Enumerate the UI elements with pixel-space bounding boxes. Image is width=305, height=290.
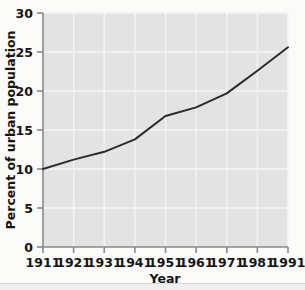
y-axis-tick-labels: 051015202530 [16, 6, 34, 255]
y-axis-tick-label: 20 [16, 84, 34, 99]
x-axis-tick-label: 1931 [87, 255, 122, 270]
x-axis-tick-label: 1951 [148, 255, 183, 270]
x-axis-ticks [43, 247, 288, 253]
y-axis-tick-label: 25 [16, 45, 33, 60]
x-axis-tick-label: 1911 [26, 255, 61, 270]
x-axis-tick-label: 1971 [209, 255, 244, 270]
x-axis-tick-label: 1921 [56, 255, 91, 270]
x-axis-tick-label: 1991 [271, 255, 305, 270]
x-axis-tick-label: 1981 [240, 255, 275, 270]
x-axis-tick-label: 1961 [179, 255, 214, 270]
page-bottom-divider [0, 283, 305, 290]
y-axis-title: Percent of urban population [3, 31, 18, 230]
y-axis-tick-label: 15 [16, 123, 33, 138]
y-axis-tick-label: 30 [16, 6, 34, 21]
y-axis-tick-label: 0 [24, 240, 33, 255]
y-axis-tick-label: 5 [24, 201, 33, 216]
x-axis-tick-label: 1941 [117, 255, 152, 270]
x-axis-tick-labels: 191119211931194119511961197119811991 [26, 255, 305, 270]
y-axis-ticks [37, 13, 43, 247]
y-axis-tick-label: 10 [16, 162, 34, 177]
